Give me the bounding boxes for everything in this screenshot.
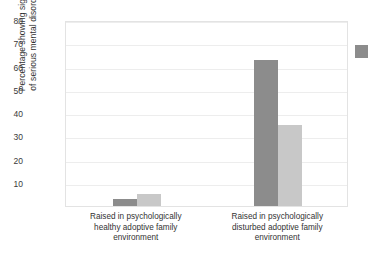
x-label-2-line-1: Raised in psychologically — [207, 212, 349, 223]
legend-swatch — [355, 45, 368, 58]
x-label-1-line-3: environment — [65, 233, 207, 244]
x-label-1-line-1: Raised in psychologically — [65, 212, 207, 223]
bar-group-2-series-1 — [254, 60, 278, 206]
bar-group-2 — [208, 20, 350, 206]
y-axis-title-line-2: of serious mental disorder — [27, 0, 38, 131]
y-tick-label-50: 50 — [1, 86, 23, 96]
y-tick-label-60: 60 — [1, 63, 23, 73]
x-label-1: Raised in psychologicallyhealthy adoptiv… — [65, 212, 207, 244]
x-label-2-line-2: disturbed adoptive family — [207, 223, 349, 234]
x-label-2: Raised in psychologicallydisturbed adopt… — [207, 212, 349, 244]
bar-chart: Percentage showing signs of serious ment… — [0, 0, 375, 264]
bar-group-1-series-2 — [137, 194, 161, 206]
bar-group-1-series-1 — [113, 199, 137, 206]
plot-area — [65, 21, 348, 207]
y-tick-label-40: 40 — [1, 109, 23, 119]
y-tick-label-10: 10 — [1, 179, 23, 189]
y-tick-label-30: 30 — [1, 132, 23, 142]
y-tick-label-80: 80 — [1, 16, 23, 26]
y-tick-label-20: 20 — [1, 156, 23, 166]
x-label-2-line-3: environment — [207, 233, 349, 244]
bar-group-2-series-2 — [278, 125, 302, 206]
x-label-1-line-2: healthy adoptive family — [65, 223, 207, 234]
bar-group-1 — [66, 20, 208, 206]
y-tick-label-70: 70 — [1, 39, 23, 49]
